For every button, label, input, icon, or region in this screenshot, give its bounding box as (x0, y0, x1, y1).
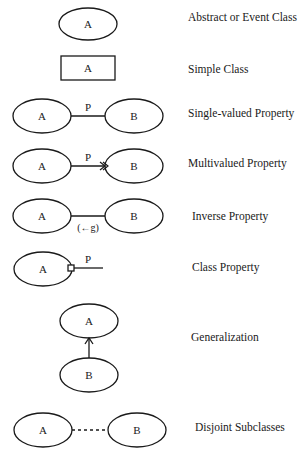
svg-text:A: A (38, 210, 46, 222)
disjoint-subclasses-symbol: A B (14, 413, 166, 447)
svg-text:A: A (85, 315, 93, 327)
label-disjoint-subclasses: Disjoint Subclasses (195, 421, 285, 433)
svg-text:P: P (85, 253, 91, 265)
label-abstract-class: Abstract or Event Class (188, 11, 297, 23)
inverse-property-symbol: A B (←g) (13, 199, 163, 234)
class-property-symbol: A P (14, 252, 103, 286)
simple-class-symbol: A (61, 56, 115, 80)
svg-text:B: B (133, 424, 140, 436)
multivalued-property-symbol: A B P (13, 149, 163, 183)
svg-text:P: P (85, 101, 91, 113)
svg-text:A: A (39, 424, 47, 436)
svg-text:B: B (130, 160, 137, 172)
svg-text:A: A (84, 62, 92, 74)
abstract-class-symbol: A (59, 8, 117, 40)
svg-text:B: B (85, 369, 92, 381)
label-simple-class: Simple Class (188, 63, 248, 75)
svg-text:A: A (84, 18, 92, 30)
generalization-symbol: A B (60, 304, 118, 392)
label-generalization: Generalization (191, 331, 259, 343)
svg-text:B: B (130, 110, 137, 122)
svg-text:A: A (38, 160, 46, 172)
svg-text:B: B (130, 210, 137, 222)
label-class-property: Class Property (192, 261, 259, 273)
svg-text:A: A (38, 110, 46, 122)
svg-text:P: P (85, 151, 91, 163)
notation-diagram: A A A B P A B P A B (←g) A P (0, 0, 306, 464)
single-valued-property-symbol: A B P (13, 99, 163, 133)
label-single-valued-property: Single-valued Property (188, 107, 294, 119)
svg-text:A: A (39, 263, 47, 275)
svg-text:(←g): (←g) (77, 222, 99, 234)
label-multivalued-property: Multivalued Property (188, 157, 287, 169)
label-inverse-property: Inverse Property (192, 210, 268, 222)
